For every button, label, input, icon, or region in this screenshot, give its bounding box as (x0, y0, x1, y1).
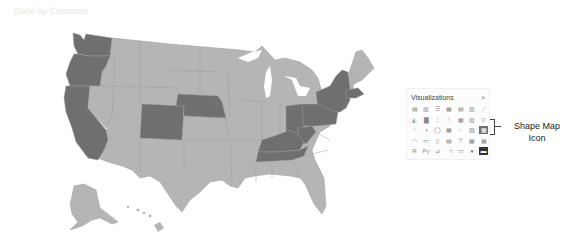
shape-map-visual[interactable] (0, 0, 400, 244)
visualizations-title: Visualizations (411, 94, 454, 101)
slicer-icon[interactable]: ⊤ (456, 137, 465, 145)
donut-chart-icon[interactable]: ◯ (433, 126, 442, 134)
clustered-column-chart-icon[interactable]: ▦ (445, 105, 454, 113)
map-icon[interactable]: ◌ (456, 126, 465, 134)
visualization-icon-grid: ▤▥☰▦▤▥⟋◭▇⫶⫶▦▥▽⁘◑◯▦◌▨▩◠▭▯▤⊤▦▦RPy⊿⊣▭●▬ (410, 105, 489, 156)
ribbon-chart-icon[interactable]: ▦ (456, 116, 465, 124)
arcgis-icon[interactable]: ● (468, 147, 477, 155)
stacked-bar-chart-icon[interactable]: ▤ (410, 105, 419, 113)
callout-bracket (490, 119, 495, 135)
state-HI[interactable] (127, 206, 164, 232)
gauge-icon[interactable]: ◠ (410, 137, 419, 145)
state-CO[interactable] (140, 104, 184, 140)
more-visuals-icon[interactable]: ··· (411, 155, 418, 161)
key-influencers-icon[interactable]: ⊿ (433, 147, 442, 155)
us-map[interactable] (0, 0, 400, 244)
kpi-icon[interactable]: ▤ (445, 137, 454, 145)
clustered-bar-chart-icon[interactable]: ☰ (433, 105, 442, 113)
multi-row-card-icon[interactable]: ▯ (433, 137, 442, 145)
python-icon[interactable]: Py (422, 147, 431, 155)
area-chart-icon[interactable]: ◭ (410, 116, 419, 124)
line-chart-icon[interactable]: ⟋ (479, 105, 488, 113)
decomposition-tree-icon[interactable]: ⊣ (445, 147, 454, 155)
state-AK[interactable] (70, 184, 118, 230)
r-script-icon[interactable]: R (410, 147, 419, 155)
treemap-icon[interactable]: ▦ (445, 126, 454, 134)
qa-icon[interactable]: ▭ (456, 147, 465, 155)
line-clustered-column-icon[interactable]: ⫶ (433, 116, 442, 124)
callout-line (495, 126, 501, 127)
waterfall-chart-icon[interactable]: ▥ (468, 116, 477, 124)
shape-map-icon[interactable]: ▩ (479, 126, 488, 134)
100-stacked-bar-icon[interactable]: ▤ (456, 105, 465, 113)
stacked-column-chart-icon[interactable]: ▥ (422, 105, 431, 113)
state-MA[interactable] (346, 88, 364, 98)
pie-chart-icon[interactable]: ◑ (422, 126, 431, 134)
100-stacked-column-icon[interactable]: ▥ (468, 105, 477, 113)
matrix-icon[interactable]: ▦ (479, 137, 488, 145)
line-stacked-column-icon[interactable]: ⫶ (445, 116, 454, 124)
visualizations-header: Visualizations > (411, 92, 485, 102)
chevron-right-icon[interactable]: > (481, 94, 485, 101)
power-apps-icon[interactable]: ▬ (479, 147, 488, 155)
stacked-area-chart-icon[interactable]: ▇ (422, 116, 431, 124)
state-WA[interactable] (73, 33, 112, 56)
scatter-chart-icon[interactable]: ⁘ (410, 126, 419, 134)
state-ME[interactable] (350, 50, 374, 84)
visualizations-panel: Visualizations > ▤▥☰▦▤▥⟋◭▇⫶⫶▦▥▽⁘◑◯▦◌▨▩◠▭… (406, 88, 490, 160)
shape-map-callout-label: Shape Map Icon (507, 120, 567, 144)
table-icon[interactable]: ▦ (468, 137, 477, 145)
filled-map-icon[interactable]: ▨ (468, 126, 477, 134)
card-icon[interactable]: ▭ (422, 137, 431, 145)
funnel-icon[interactable]: ▽ (479, 116, 488, 124)
